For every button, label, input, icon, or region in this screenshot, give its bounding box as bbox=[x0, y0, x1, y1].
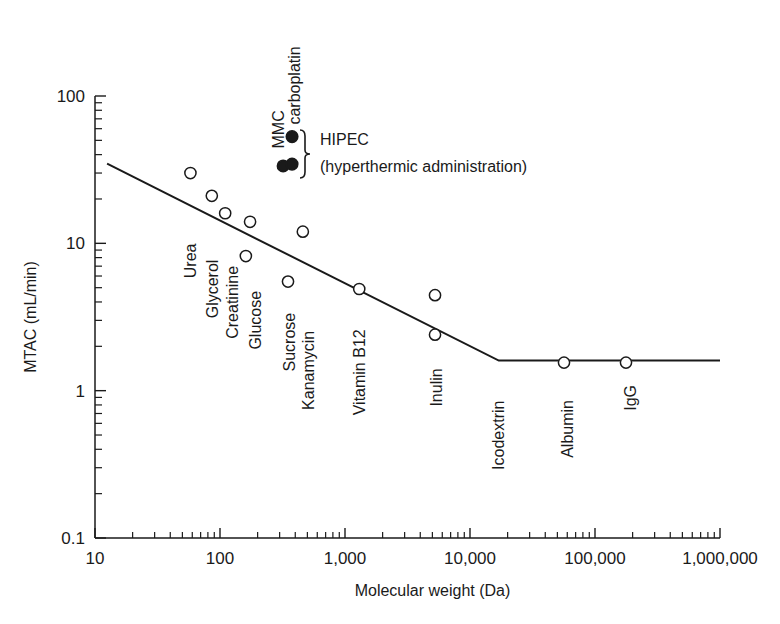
annotation-hipec: HIPEC bbox=[320, 131, 369, 148]
data-point bbox=[185, 167, 196, 178]
data-point bbox=[558, 357, 569, 368]
hipec-point bbox=[286, 158, 298, 170]
y-tick-label: 1 bbox=[76, 382, 85, 401]
point-label: Creatinine bbox=[224, 266, 241, 339]
x-tick-label: 10 bbox=[86, 549, 105, 568]
data-point bbox=[429, 290, 440, 301]
point-label: Albumin bbox=[559, 400, 576, 458]
point-label: Sucrose bbox=[281, 313, 298, 372]
data-point bbox=[282, 276, 293, 287]
data-point bbox=[240, 250, 251, 261]
x-tick-label: 1,000 bbox=[324, 549, 367, 568]
point-label: Vitamin B12 bbox=[351, 329, 368, 415]
hipec-point bbox=[286, 131, 298, 143]
x-tick-label: 10,000 bbox=[444, 549, 496, 568]
y-axis-title: MTAC (mL/min) bbox=[22, 261, 39, 373]
x-tick-label: 1,000,000 bbox=[682, 549, 758, 568]
data-point bbox=[220, 208, 231, 219]
data-point bbox=[206, 190, 217, 201]
annotation-hyperthermic: (hyperthermic administration) bbox=[320, 158, 527, 175]
hipec-brace bbox=[300, 130, 310, 178]
annotations: HIPEC (hyperthermic administration) bbox=[300, 130, 527, 178]
y-tick-label: 10 bbox=[66, 234, 85, 253]
x-tick-label: 100,000 bbox=[564, 549, 625, 568]
point-label: MMC bbox=[270, 110, 287, 148]
point-label: Icodextrin bbox=[490, 401, 507, 470]
x-axis-title: Molecular weight (Da) bbox=[355, 582, 511, 599]
point-label: Kanamycin bbox=[300, 331, 317, 410]
data-point bbox=[244, 216, 255, 227]
point-label: Inulin bbox=[428, 368, 445, 406]
x-tick-label: 100 bbox=[206, 549, 234, 568]
point-label: carboplatin bbox=[286, 46, 303, 124]
data-point bbox=[354, 283, 365, 294]
data-point bbox=[620, 357, 631, 368]
point-label: Glycerol bbox=[204, 260, 221, 319]
point-label: IgG bbox=[622, 385, 639, 411]
y-tick-label: 100 bbox=[57, 87, 85, 106]
data-point bbox=[429, 329, 440, 340]
y-tick-label: 0.1 bbox=[61, 529, 85, 548]
point-label: Urea bbox=[182, 243, 199, 278]
chart: 101001,00010,000100,0001,000,0000.111010… bbox=[0, 0, 780, 624]
point-label: Glucose bbox=[247, 291, 264, 350]
data-point bbox=[297, 226, 308, 237]
